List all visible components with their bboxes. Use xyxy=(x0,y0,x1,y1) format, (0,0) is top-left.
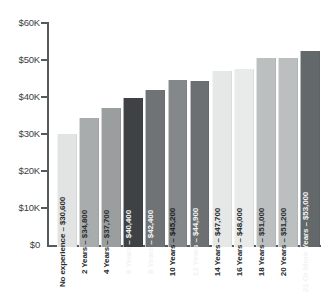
bar-label: 8 Years – $42,400 xyxy=(147,210,155,274)
y-axis-tick xyxy=(41,170,49,172)
bar: 12 Years – $44,900 xyxy=(190,81,210,247)
y-axis-tick-label: $10K xyxy=(0,202,40,213)
bar: 21 Or More Years – $53,000 xyxy=(300,51,320,247)
y-axis-tick xyxy=(41,96,49,98)
bar-label: 18 Years – $51,000 xyxy=(258,208,266,276)
y-axis-tick xyxy=(41,207,49,209)
plot-area: No experience – $30,6002 Years – $34,800… xyxy=(56,23,321,247)
bar-label: 14 Years – $47,700 xyxy=(214,208,222,276)
y-axis-tick-label: $20K xyxy=(0,165,40,176)
bar: 10 Years – $45,200 xyxy=(168,80,188,247)
bar: 14 Years – $47,700 xyxy=(212,71,232,247)
bar: 4 Years – $37,700 xyxy=(101,108,121,247)
bar-label: 10 Years – $45,200 xyxy=(169,208,177,276)
y-axis-tick xyxy=(41,59,49,61)
bar: 8 Years – $42,400 xyxy=(145,90,165,247)
bar-label: 20 Years – $51,200 xyxy=(280,208,288,276)
bar-label: 4 Years – $37,700 xyxy=(103,210,111,274)
bar: 18 Years – $51,000 xyxy=(256,58,276,247)
bar: 20 Years – $51,200 xyxy=(278,58,298,247)
bar: No experience – $30,600 xyxy=(57,134,77,247)
y-axis-tick-label: $50K xyxy=(0,54,40,65)
y-axis-tick xyxy=(41,22,49,24)
y-axis-line xyxy=(47,23,49,247)
bar-label: 12 Years – $44,900 xyxy=(192,208,200,276)
bar-label: 16 Years – $48,000 xyxy=(236,208,244,276)
y-axis-tick-label: $30K xyxy=(0,128,40,139)
bar: 6 Years – $40,400 xyxy=(123,98,143,247)
y-axis-tick xyxy=(41,133,49,135)
bar-label: 6 Years – $40,400 xyxy=(125,210,133,274)
y-axis-tick-label: $40K xyxy=(0,91,40,102)
bar-label: 2 Years – $34,800 xyxy=(81,210,89,274)
bar-label: No experience – $30,600 xyxy=(59,197,67,287)
bar-label: 21 Or More Years – $53,000 xyxy=(302,192,310,292)
y-axis-tick-label: $60K xyxy=(0,17,40,28)
y-axis-tick-label: $0 xyxy=(0,239,40,250)
bar: 2 Years – $34,800 xyxy=(79,118,99,247)
bar: 16 Years – $48,000 xyxy=(234,69,254,247)
